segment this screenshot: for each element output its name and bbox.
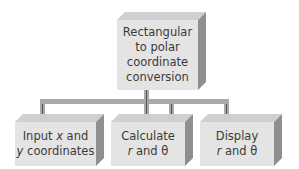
child-node-face: Calculate r and θ [111, 122, 185, 166]
child-node-calculate: Calculate r and θ [111, 114, 193, 166]
root-node-top [117, 12, 206, 20]
child-3-line-2: r and θ [217, 144, 258, 159]
child-1-line-1: Input x and [23, 129, 89, 144]
child-node-side [96, 114, 104, 166]
child-1-line-2: y coordinates [17, 144, 95, 159]
connector-right-horizontal [169, 99, 229, 104]
root-node-face: Rectangular to polar coordinate conversi… [117, 20, 198, 90]
root-node: Rectangular to polar coordinate conversi… [117, 12, 206, 90]
root-line-2: to polar [135, 40, 180, 55]
child-2-line-1: Calculate [121, 129, 175, 144]
root-node-side [198, 12, 206, 90]
child-node-top [15, 114, 104, 122]
connector-horizontal [40, 99, 174, 104]
child-node-face: Display r and θ [200, 122, 274, 166]
child-node-side [185, 114, 193, 166]
child-node-face: Input x and y coordinates [15, 122, 96, 166]
root-line-4: conversion [126, 70, 189, 85]
root-line-3: coordinate [127, 55, 188, 70]
child-node-top [111, 114, 193, 122]
child-3-line-1: Display [216, 129, 258, 144]
child-2-line-2: r and θ [128, 144, 169, 159]
child-node-top [200, 114, 282, 122]
root-line-1: Rectangular [123, 25, 192, 40]
child-node-input: Input x and y coordinates [15, 114, 104, 166]
child-node-side [274, 114, 282, 166]
child-node-display: Display r and θ [200, 114, 282, 166]
